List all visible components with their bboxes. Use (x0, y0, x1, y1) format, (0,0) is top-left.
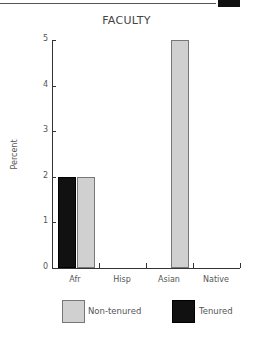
y-tick-label: 3 (38, 125, 48, 134)
legend-label-tenured: Tenured (199, 306, 233, 316)
x-tick-label: Asian (146, 275, 192, 284)
bar-non-tenured-asian (171, 40, 189, 268)
y-axis (52, 40, 53, 269)
top-rule (0, 3, 216, 4)
y-tick-label: 2 (38, 171, 48, 180)
x-axis (52, 268, 240, 269)
x-tick-mark (146, 263, 147, 268)
legend-label-non-tenured: Non-tenured (88, 306, 141, 316)
x-tick-mark (240, 263, 241, 268)
legend-swatch-tenured (172, 300, 195, 323)
x-tick-label: Native (193, 275, 239, 284)
chart-title: FACULTY (0, 14, 253, 27)
y-tick-mark (52, 86, 56, 87)
y-tick-label: 1 (38, 216, 48, 225)
y-tick-label: 0 (38, 262, 48, 271)
x-tick-mark (193, 263, 194, 268)
y-tick-mark (52, 177, 56, 178)
y-tick-mark (52, 222, 56, 223)
y-tick-label: 5 (38, 34, 48, 43)
x-tick-label: Hisp (99, 275, 145, 284)
y-tick-label: 4 (38, 80, 48, 89)
top-marker-block (218, 0, 240, 7)
y-tick-mark (52, 268, 56, 269)
bar-tenured-afr (58, 177, 76, 268)
y-tick-mark (52, 131, 56, 132)
x-tick-label: Afr (52, 275, 98, 284)
x-tick-mark (99, 263, 100, 268)
y-axis-label: Percent (10, 135, 19, 175)
y-tick-mark (52, 40, 56, 41)
bar-non-tenured-afr (77, 177, 95, 268)
legend-swatch-non-tenured (62, 300, 85, 323)
